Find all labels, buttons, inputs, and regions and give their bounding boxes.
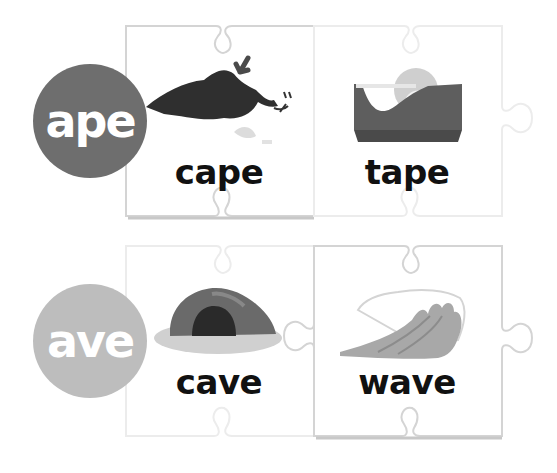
wave-icon (338, 286, 478, 366)
word-label: wave (312, 362, 502, 402)
puzzle-piece-wave[interactable]: wave (312, 244, 502, 438)
word-label: cape (124, 152, 314, 192)
word-family-badge-ape: ape (33, 64, 147, 178)
word-family-label: ape (45, 94, 134, 148)
word-family-badge-ave: ave (33, 284, 147, 398)
word-label: cave (124, 362, 314, 402)
word-family-row-ave: cave wave ave (0, 232, 557, 442)
tape-dispenser-icon (352, 64, 464, 144)
cave-icon (152, 282, 288, 362)
puzzle-piece-cape[interactable]: cape (124, 24, 314, 218)
word-family-row-ape: cape tape ape (0, 18, 557, 228)
word-label: tape (312, 152, 502, 192)
word-family-label: ave (47, 314, 133, 368)
cape-icon (144, 52, 294, 152)
puzzle-piece-tape[interactable]: tape (312, 24, 502, 218)
